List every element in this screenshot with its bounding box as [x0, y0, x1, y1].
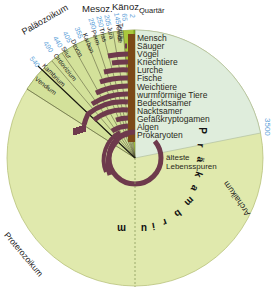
letter: ä	[195, 156, 207, 163]
number-540: 540	[28, 55, 41, 69]
number-65: 65	[121, 13, 129, 21]
letter: u	[141, 223, 147, 234]
letter: P	[197, 127, 208, 134]
boundary-3500: 3500	[263, 118, 272, 136]
organism-list: Mensch Säuger Vögel Kriechtiere Lurche F…	[137, 34, 210, 139]
era-kaenozoikum: Känoz.	[112, 1, 142, 12]
letter: a	[189, 183, 201, 193]
era-proterozoikum: Proterozoikum	[2, 230, 45, 278]
number-2: 2	[129, 14, 136, 18]
letter: r	[161, 217, 168, 229]
letter: r	[195, 143, 206, 148]
letter: m	[117, 223, 126, 234]
number-490: 490	[42, 40, 54, 54]
letter: b	[172, 207, 183, 220]
letter: k	[193, 170, 205, 179]
era-quartaer: Quartär	[139, 6, 164, 15]
number-405: 405	[62, 30, 73, 44]
oldest-traces-line2: Lebensspuren	[166, 163, 217, 172]
era-mesozoikum: Mesoz.	[82, 3, 113, 14]
labels-layer: Mensch Säuger Vögel Kriechtiere Lurche F…	[0, 0, 276, 297]
oldest-traces-label: älteste Lebensspuren	[166, 154, 217, 171]
letter: i	[151, 221, 156, 232]
era-archaikum: Archaikum	[221, 179, 252, 218]
letter: m	[182, 194, 196, 208]
